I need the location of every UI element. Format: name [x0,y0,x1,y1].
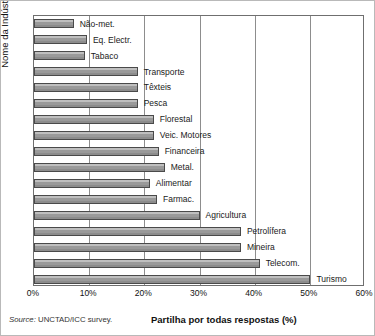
bar [34,83,138,92]
bar-series: Não-met.Eq. Electr.TabacoTransporteTêxte… [34,16,363,285]
bar-label: Mineira [247,243,275,252]
source-text: UNCTAD/ICC survey. [38,315,112,324]
bar-row: Financeira [34,144,365,160]
bar [34,35,87,44]
x-tick-label: 10% [80,288,97,298]
y-axis-label: Nome da Indústria [0,0,10,89]
bar-label: Transporte [144,68,185,77]
bar-row: Mineira [34,239,365,255]
bar [34,179,150,188]
x-axis-label: Partilha por todas respostas (%) [151,314,297,325]
bar [34,67,138,76]
bar-label: Pesca [144,99,168,108]
bar-label: Florestal [160,115,193,124]
bar-label: Tabaco [91,52,118,61]
bar-row: Veic. Motores [34,128,365,144]
bar-label: Veic. Motores [160,131,212,140]
bar [34,147,159,156]
bar-row: Tabaco [34,48,365,64]
bar [34,243,241,252]
x-tick-label: 40% [245,288,262,298]
bar [34,211,200,220]
bar-label: Metal. [171,163,194,172]
bar-label: Financeira [165,147,205,156]
bar [34,259,260,268]
bar [34,227,241,236]
y-axis-label-container: Nome da Indústria [3,1,29,291]
bar-row: Alimentar [34,175,365,191]
bar-label: Não-met. [80,20,115,29]
plot-area: Não-met.Eq. Electr.TabacoTransporteTêxte… [33,15,364,286]
bar-row: Transporte [34,64,365,80]
x-axis-ticks: 0%10%20%30%40%50%60% [33,288,364,302]
x-tick-label: 30% [190,288,207,298]
bar [34,163,165,172]
bar [34,19,74,28]
x-tick-label: 0% [27,288,39,298]
bar [34,275,310,284]
bar-row: Farmac. [34,191,365,207]
bar-label: Turismo [316,275,346,284]
bar-label: Telecom. [266,259,300,268]
source-prefix: Source: [9,315,36,324]
bar-label: Têxteis [144,83,171,92]
bar-row: Turismo [34,271,365,287]
bar-label: Farmac. [163,195,194,204]
x-tick-label: 20% [135,288,152,298]
chart-figure: Nome da Indústria Não-met.Eq. Electr.Tab… [0,0,375,336]
bar [34,195,157,204]
bar [34,131,154,140]
source-note: Source: UNCTAD/ICC survey. [9,315,112,324]
bar-row: Telecom. [34,255,365,271]
bar-row: Não-met. [34,16,365,32]
bar-label: Alimentar [156,179,192,188]
bar-row: Petrolífera [34,223,365,239]
bar [34,115,154,124]
bar [34,51,85,60]
bar-row: Metal. [34,159,365,175]
bar-label: Agricultura [206,211,247,220]
x-tick-label: 50% [300,288,317,298]
x-tick-label: 60% [355,288,372,298]
bar-row: Pesca [34,96,365,112]
bar-row: Têxteis [34,80,365,96]
bar-label: Petrolífera [247,227,286,236]
bar [34,99,138,108]
bar-row: Florestal [34,112,365,128]
bar-label: Eq. Electr. [93,36,132,45]
bar-row: Agricultura [34,207,365,223]
bar-row: Eq. Electr. [34,32,365,48]
